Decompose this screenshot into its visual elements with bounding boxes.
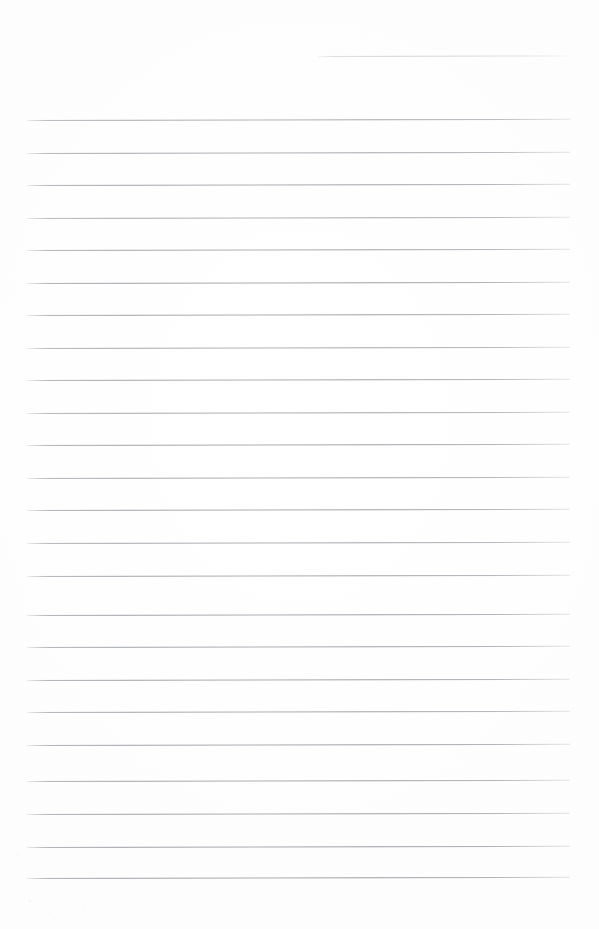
ruling-line xyxy=(27,780,570,782)
ruling-line xyxy=(27,249,570,251)
ruling-line xyxy=(27,347,570,349)
ruling-line xyxy=(27,477,570,479)
ruling-line xyxy=(27,711,570,713)
ruling-line xyxy=(27,151,570,153)
ruling-line xyxy=(27,119,570,121)
ruling-line xyxy=(27,542,570,544)
ruling-line xyxy=(27,614,570,616)
ruling-line xyxy=(27,679,570,681)
ruling-line xyxy=(27,282,570,284)
ruling-line xyxy=(27,812,570,814)
ruling-line xyxy=(27,646,570,648)
ruling-line-partial xyxy=(318,55,570,57)
ruling-line xyxy=(27,444,570,446)
ruling-line xyxy=(27,314,570,316)
ruling-line xyxy=(27,379,570,381)
ruling-line xyxy=(27,877,570,879)
ruling-line xyxy=(27,184,570,186)
ruling-line xyxy=(27,846,570,848)
scanned-page xyxy=(0,0,599,929)
ruling-line xyxy=(27,574,570,576)
scan-noise-overlay xyxy=(0,0,599,929)
ruling-line xyxy=(27,509,570,511)
ruling-line xyxy=(27,744,570,746)
paper-surface xyxy=(0,0,599,929)
ruling-line xyxy=(27,412,570,414)
ruling-line xyxy=(27,216,570,218)
